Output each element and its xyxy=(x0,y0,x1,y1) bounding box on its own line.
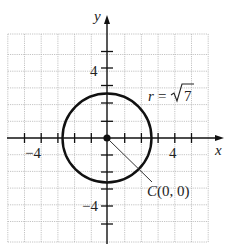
y-tick-label-pos4: 4 xyxy=(90,63,98,79)
y-axis-label: y xyxy=(92,8,101,24)
equals-sign: = xyxy=(158,88,166,104)
radicand: 7 xyxy=(184,88,192,104)
circle-graph: y x −4 4 4 −4 r = 7 C(0, 0) xyxy=(0,0,227,248)
y-axis xyxy=(101,15,113,244)
y-tick-label-neg4: −4 xyxy=(82,198,98,214)
x-axis-arrow-icon xyxy=(215,135,224,141)
x-tick-label-pos4: 4 xyxy=(169,145,177,161)
y-axis-arrow-icon xyxy=(104,15,110,24)
x-axis-label: x xyxy=(214,142,222,158)
x-tick-label-neg4: −4 xyxy=(25,145,41,161)
radius-label: r = 7 xyxy=(148,84,194,104)
x-axis xyxy=(7,133,224,143)
center-label: C(0, 0) xyxy=(147,183,190,200)
radius-symbol: r xyxy=(148,88,154,104)
